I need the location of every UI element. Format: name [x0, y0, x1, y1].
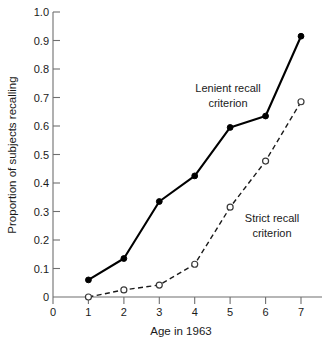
y-tick-label: 0.4: [34, 177, 49, 189]
data-point: [86, 277, 92, 283]
data-point: [298, 33, 304, 39]
y-tick-label: 0.5: [34, 149, 49, 161]
x-tick-label: 6: [263, 306, 269, 318]
chart-canvas: 1.0 0.9 0.8 0.7 0.6 0.5 0.4 0.3 0.2 0.1 …: [0, 0, 336, 339]
y-axis-ticks: [53, 12, 60, 269]
x-tick-label: 3: [156, 306, 162, 318]
series-lenient: [86, 33, 304, 282]
series-strict: [85, 99, 304, 300]
x-tick-label: 1: [85, 306, 91, 318]
data-series-layer: [85, 33, 304, 300]
data-point: [263, 113, 269, 119]
line-chart: 1.0 0.9 0.8 0.7 0.6 0.5 0.4 0.3 0.2 0.1 …: [0, 0, 336, 339]
annotation-strict-line1: Strict recall: [245, 212, 299, 224]
y-tick-label: 0: [43, 291, 49, 303]
annotation-strict-recall: Strict recall criterion: [245, 212, 299, 239]
data-point: [227, 125, 233, 131]
x-tick-label: 5: [227, 306, 233, 318]
data-point: [227, 204, 233, 210]
y-axis-title: Proportion of subjects recalling: [6, 76, 18, 233]
x-axis-title: Age in 1963: [150, 325, 211, 337]
y-tick-label: 0.9: [34, 35, 49, 47]
data-point: [85, 294, 91, 300]
y-tick-label: 0.6: [34, 120, 49, 132]
x-tick-label: 4: [192, 306, 198, 318]
annotation-lenient-recall: Lenient recall criterion: [195, 82, 260, 109]
annotation-strict-line2: criterion: [252, 227, 291, 239]
y-tick-label: 0.1: [34, 263, 49, 275]
data-point: [121, 287, 127, 293]
annotation-lenient-line2: criterion: [208, 97, 247, 109]
data-point: [192, 261, 198, 267]
x-tick-labels: 0 1 2 3 4 5 6 7: [50, 306, 304, 318]
y-tick-label: 0.3: [34, 206, 49, 218]
y-tick-label: 0.8: [34, 63, 49, 75]
data-point: [156, 199, 162, 205]
data-point: [298, 99, 304, 105]
y-tick-label: 0.2: [34, 234, 49, 246]
data-point: [156, 282, 162, 288]
x-tick-label: 2: [121, 306, 127, 318]
y-tick-label: 0.7: [34, 92, 49, 104]
data-point: [192, 173, 198, 179]
series-line: [88, 36, 301, 280]
y-tick-label: 1.0: [34, 6, 49, 18]
data-point: [263, 158, 269, 164]
x-tick-label: 0: [50, 306, 56, 318]
y-tick-labels: 1.0 0.9 0.8 0.7 0.6 0.5 0.4 0.3 0.2 0.1 …: [34, 6, 49, 303]
annotation-lenient-line1: Lenient recall: [195, 82, 260, 94]
data-point: [121, 256, 127, 262]
x-tick-label: 7: [298, 306, 304, 318]
